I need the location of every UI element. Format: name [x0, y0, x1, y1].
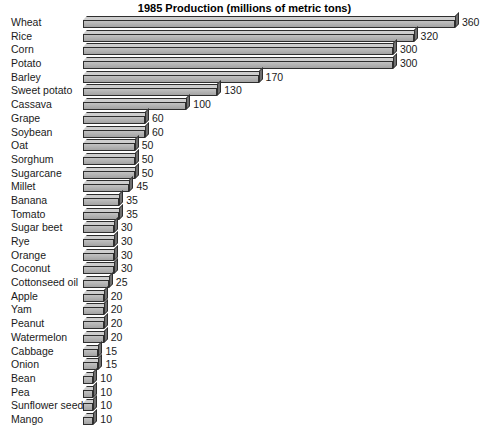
- category-label: Orange: [11, 249, 46, 261]
- bar-front-face: [83, 61, 393, 69]
- bar-row: Cabbage15: [0, 344, 489, 358]
- bar-row: Sweet potato130: [0, 83, 489, 97]
- bar: [83, 57, 397, 69]
- bar-row: Sunflower seed10: [0, 398, 489, 412]
- bar: [83, 317, 108, 329]
- value-label: 25: [116, 276, 128, 288]
- bar-front-face: [83, 75, 259, 83]
- bar-end-face: [259, 67, 263, 83]
- value-label: 50: [142, 153, 154, 165]
- bar-front-face: [83, 212, 119, 220]
- bar-end-face: [109, 272, 113, 288]
- bar-row: Mango10: [0, 412, 489, 426]
- plot-area: Wheat360Rice320Corn300Potato300Barley170…: [0, 15, 489, 427]
- category-label: Corn: [11, 43, 34, 55]
- value-label: 50: [142, 139, 154, 151]
- category-label: Sunflower seed: [11, 399, 83, 411]
- bar-row: Pea10: [0, 385, 489, 399]
- bar-front-face: [83, 34, 414, 42]
- bar: [83, 30, 418, 42]
- bar: [83, 331, 108, 343]
- bar-front-face: [83, 266, 114, 274]
- bar-row: Bean10: [0, 371, 489, 385]
- category-label: Tomato: [11, 208, 45, 220]
- category-label: Millet: [11, 180, 36, 192]
- bar: [83, 276, 113, 288]
- bar: [83, 126, 149, 138]
- value-label: 300: [400, 57, 418, 69]
- category-label: Barley: [11, 71, 41, 83]
- bar-row: Soybean60: [0, 125, 489, 139]
- bar-front-face: [83, 253, 114, 261]
- bar-row: Oat50: [0, 138, 489, 152]
- bar: [83, 194, 123, 206]
- value-label: 10: [100, 372, 112, 384]
- bar-row: Rice320: [0, 29, 489, 43]
- bar-front-face: [83, 239, 114, 247]
- bar-row: Watermelon20: [0, 330, 489, 344]
- bar-front-face: [83, 171, 135, 179]
- category-label: Cottonseed oil: [11, 276, 78, 288]
- bar-end-face: [414, 26, 418, 42]
- bar-end-face: [186, 94, 190, 110]
- value-label: 320: [421, 30, 439, 42]
- bar: [83, 71, 263, 83]
- bar-end-face: [135, 163, 139, 179]
- value-label: 60: [152, 126, 164, 138]
- bar-row: Cassava100: [0, 97, 489, 111]
- bar-front-face: [83, 417, 93, 425]
- category-label: Peanut: [11, 317, 44, 329]
- value-label: 30: [121, 249, 133, 261]
- bar-front-face: [83, 225, 114, 233]
- value-label: 30: [121, 221, 133, 233]
- category-label: Rye: [11, 235, 30, 247]
- bar: [83, 413, 97, 425]
- bar-end-face: [145, 122, 149, 138]
- value-label: 30: [121, 262, 133, 274]
- value-label: 300: [400, 43, 418, 55]
- bar-end-face: [129, 176, 133, 192]
- category-label: Pea: [11, 386, 30, 398]
- bar-row: Millet45: [0, 179, 489, 193]
- bar-front-face: [83, 198, 119, 206]
- bar-front-face: [83, 116, 145, 124]
- category-label: Soybean: [11, 126, 52, 138]
- value-label: 360: [462, 16, 480, 28]
- bar-row: Peanut20: [0, 316, 489, 330]
- category-label: Bean: [11, 372, 36, 384]
- bar-row: Banana35: [0, 193, 489, 207]
- bar: [83, 139, 139, 151]
- bar-row: Grape60: [0, 111, 489, 125]
- bar-front-face: [83, 88, 217, 96]
- category-label: Sorghum: [11, 153, 54, 165]
- bar-row: Yam20: [0, 302, 489, 316]
- bar-chart: 1985 Production (millions of metric tons…: [0, 0, 489, 430]
- bar-row: Onion15: [0, 357, 489, 371]
- value-label: 20: [111, 331, 123, 343]
- bar-front-face: [83, 280, 109, 288]
- chart-title: 1985 Production (millions of metric tons…: [0, 2, 489, 14]
- bar: [83, 290, 108, 302]
- bar-row: Sorghum50: [0, 152, 489, 166]
- category-label: Mango: [11, 413, 43, 425]
- bar-front-face: [83, 321, 104, 329]
- value-label: 20: [111, 303, 123, 315]
- bar: [83, 221, 118, 233]
- bar-front-face: [83, 307, 104, 315]
- bar-row: Sugarcane50: [0, 166, 489, 180]
- bar: [83, 180, 133, 192]
- value-label: 15: [105, 345, 117, 357]
- bar: [83, 235, 118, 247]
- bar: [83, 98, 190, 110]
- bar-row: Barley170: [0, 70, 489, 84]
- bar-front-face: [83, 390, 93, 398]
- bar-front-face: [83, 20, 455, 28]
- value-label: 10: [100, 386, 112, 398]
- value-label: 130: [224, 84, 242, 96]
- bar: [83, 16, 459, 28]
- bar: [83, 358, 102, 370]
- category-label: Sweet potato: [11, 84, 72, 96]
- value-label: 30: [121, 235, 133, 247]
- category-label: Potato: [11, 57, 41, 69]
- category-label: Sugar beet: [11, 221, 62, 233]
